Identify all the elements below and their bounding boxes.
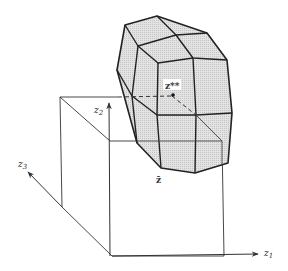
svg-text:z3: z3 — [17, 159, 28, 171]
svg-text:z2: z2 — [93, 105, 104, 117]
z-bar-label: z̄ — [156, 175, 161, 185]
svg-text:z1: z1 — [263, 248, 273, 260]
z-double-star-label: z** — [165, 81, 180, 91]
diagram-canvas: z** z̄ z2 z1 z3 — [0, 0, 288, 271]
axis-z3: z3 — [17, 159, 62, 207]
axis-z1: z1 — [112, 248, 273, 260]
axis-z2: z2 — [93, 103, 110, 256]
